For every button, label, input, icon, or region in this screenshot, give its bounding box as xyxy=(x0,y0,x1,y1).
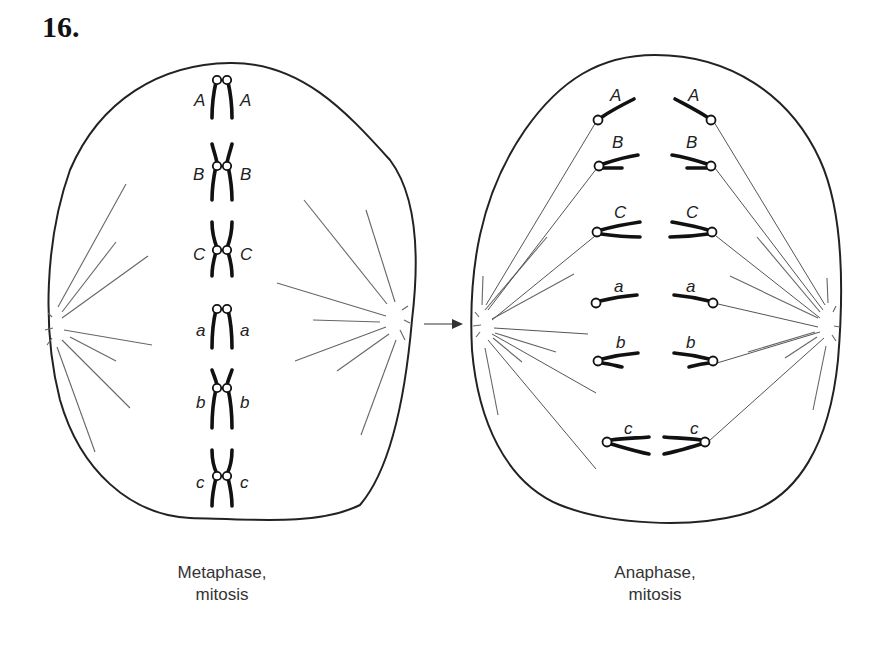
allele-label: a xyxy=(196,321,205,340)
allele-label: C xyxy=(240,245,253,264)
metaphase-chromosome-B: B B xyxy=(193,144,251,200)
anaphase-caption-line2: mitosis xyxy=(629,585,682,604)
metaphase-chromosome-b: b b xyxy=(196,370,249,428)
anaphase-cell-membrane xyxy=(471,55,841,523)
metaphase-chromosome-a: a a xyxy=(196,305,249,348)
allele-label: a xyxy=(686,277,695,296)
allele-label: c xyxy=(196,473,205,492)
metaphase-right-spindle xyxy=(277,200,410,435)
allele-label: c xyxy=(240,473,249,492)
metaphase-cell: A A B B C C xyxy=(45,63,416,604)
allele-label: c xyxy=(624,419,633,438)
mitosis-diagram: A A B B C C xyxy=(0,0,870,664)
allele-label: C xyxy=(193,245,206,264)
metaphase-caption-line2: mitosis xyxy=(196,585,249,604)
allele-label: A xyxy=(687,86,699,105)
allele-label: b xyxy=(196,393,205,412)
metaphase-chromosome-A: A A xyxy=(193,76,251,118)
metaphase-chromosome-C: C C xyxy=(193,222,253,276)
allele-label: a xyxy=(240,321,249,340)
anaphase-right-chromatids: A B C a b c xyxy=(664,86,718,454)
anaphase-right-kinetochore-fibers xyxy=(709,122,825,441)
allele-label: b xyxy=(616,333,625,352)
anaphase-cell: A B C a b c xyxy=(471,55,841,604)
allele-label: B xyxy=(686,133,697,152)
allele-label: c xyxy=(690,419,699,438)
anaphase-left-chromatids: A B C a b c xyxy=(592,86,650,454)
allele-label: B xyxy=(612,133,623,152)
allele-label: b xyxy=(686,333,695,352)
allele-label: C xyxy=(614,203,627,222)
anaphase-caption-line1: Anaphase, xyxy=(614,563,695,582)
anaphase-right-spindle xyxy=(730,237,840,410)
allele-label: A xyxy=(239,91,251,110)
allele-label: A xyxy=(609,86,621,105)
allele-label: B xyxy=(193,165,204,184)
anaphase-left-kinetochore-fibers xyxy=(486,122,597,469)
allele-label: b xyxy=(240,393,249,412)
allele-label: B xyxy=(240,165,251,184)
right-arrow-icon xyxy=(424,319,463,329)
allele-label: A xyxy=(193,91,205,110)
metaphase-caption-line1: Metaphase, xyxy=(178,563,267,582)
allele-label: a xyxy=(614,277,623,296)
metaphase-chromosome-c: c c xyxy=(196,450,249,506)
metaphase-left-spindle xyxy=(45,184,152,452)
allele-label: C xyxy=(686,203,699,222)
